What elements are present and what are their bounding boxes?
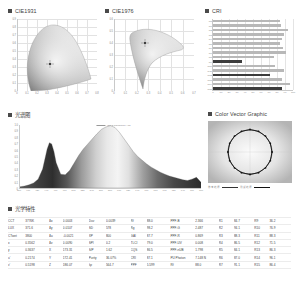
cri-x-tick: 50 xyxy=(252,91,255,94)
spectrum-y-tick: 0.4 xyxy=(14,162,18,165)
legend-ref-label: 参考光源 xyxy=(208,185,220,189)
legend-line-icon xyxy=(96,125,105,126)
cri-bar xyxy=(213,51,286,53)
color-vector-chart xyxy=(208,121,292,183)
cri-bar xyxy=(213,38,282,40)
spectrum-y-tick: 0.8 xyxy=(14,136,18,139)
table-cell-value: 1.798 xyxy=(195,247,219,254)
cri-bar-row: R2 xyxy=(213,29,293,31)
top-charts-row: CIE1931 0.9 0.8 0.7 0.6 0.5 0.4 0.3 0.2 … xyxy=(0,8,299,108)
cri-bar-row: R6 xyxy=(213,47,293,49)
cri-bar xyxy=(213,33,284,35)
table-cell-key: PPF-R xyxy=(170,232,195,239)
bullet-square-icon xyxy=(105,9,109,13)
cri-bar-label: R15 xyxy=(207,87,212,90)
cri-bar xyxy=(213,87,282,89)
cri-x-tick: 30 xyxy=(236,91,239,94)
table-cell-key: PPF-B xyxy=(170,218,195,225)
cri-bar-row: R5 xyxy=(213,42,293,44)
table-cell-key: CTwet xyxy=(8,232,25,239)
table-row: v'0.5198Z186.07λp564.7PPF5.599Rf88.0R791… xyxy=(8,261,291,268)
table-cell-key: PU Photon xyxy=(170,254,195,261)
panel-spectrum: 光谱图 1.00.90.80.70.60.50.40.30.20.10 xyxy=(8,111,203,197)
spectrum-x-tick: 380 xyxy=(17,189,21,192)
table-cell-value: 2.487 xyxy=(195,225,219,232)
spectrum-x-tick: 680 xyxy=(154,189,158,192)
report-page: CIE1931 0.9 0.8 0.7 0.6 0.5 0.4 0.3 0.2 … xyxy=(0,0,299,298)
panel-photometric: 光学特性 CCT3776KΔx0.0003Duv0.0039Rf88.0PPF-… xyxy=(8,205,291,269)
cie1931-y-axis: 0.9 0.8 0.7 0.6 0.5 0.4 0.3 0.2 0.1 0 xyxy=(8,19,17,91)
cri-bar-row: Ra xyxy=(213,20,293,22)
cri-bar xyxy=(213,60,242,62)
table-cell-value: 88.0 xyxy=(195,261,219,268)
cri-bar xyxy=(213,20,280,22)
table-cell-key: XP xyxy=(89,232,106,239)
table-cell-value: 800 xyxy=(106,232,131,239)
cie1976-gamut-shape xyxy=(114,19,194,91)
table-cell-value: 88.0 xyxy=(147,218,171,225)
table-cell-key: Y xyxy=(49,254,63,261)
cri-bar-row: R10 xyxy=(213,65,293,67)
spectrum-x-tick: 780 xyxy=(199,189,203,192)
table-cell-value: 0.3562 xyxy=(25,239,49,246)
table-cell-key: x xyxy=(8,239,25,246)
spectrum-x-tick: 600 xyxy=(117,189,121,192)
table-cell-key: S/P xyxy=(89,247,106,254)
table-cell-key: R12 xyxy=(254,239,269,246)
spectrum-legend: Nm = 0.2841907×12 xyxy=(96,125,131,127)
table-cell-value: 0.0107 xyxy=(63,225,89,232)
table-cell-key: R13 xyxy=(254,247,269,254)
table-cell-value: 86.3 xyxy=(269,247,291,254)
table-row: x0.3562Δv0.0090SPI0.2TLCI79.0PPF-UV0.008… xyxy=(8,239,291,246)
cri-bar xyxy=(213,69,284,71)
spectrum-x-tick: 640 xyxy=(135,189,139,192)
cri-bar-row: R9 xyxy=(213,60,293,62)
table-cell-key: R7 xyxy=(219,261,234,268)
table-cell-value: 3776K xyxy=(25,218,49,225)
table-cell-value: 88.3 xyxy=(269,232,291,239)
table-cell-key: CQS xyxy=(131,247,147,254)
table-cell-value: 94.1 xyxy=(234,225,254,232)
table-cell-value: 84.7 xyxy=(234,218,254,225)
cri-bar-row: R3 xyxy=(213,33,293,35)
cri-x-tick: 70 xyxy=(268,91,271,94)
bullet-square-icon xyxy=(8,113,12,117)
cie1931-title: CIE1931 xyxy=(15,8,37,14)
cri-plot-area: RaR1R2R3R4R5R6R7R8R9R10R11R12R13R14R1501… xyxy=(212,19,293,91)
table-cell-key: Duv xyxy=(89,218,106,225)
table-cell-key: R6 xyxy=(219,254,234,261)
cri-bar-row: R14 xyxy=(213,83,293,85)
spectrum-y-tick: 0.2 xyxy=(14,175,18,178)
photometric-header: 光学特性 xyxy=(8,205,291,213)
spectrum-x-tick: 500 xyxy=(72,189,76,192)
cri-x-tick: 100 xyxy=(291,91,295,94)
cie1976-title: CIE1976 xyxy=(112,8,134,14)
table-cell-key: R1 xyxy=(219,218,234,225)
spectrum-header: 光谱图 xyxy=(8,111,203,119)
table-cell-value: 86.5 xyxy=(234,239,254,246)
table-cell-key: R2 xyxy=(219,225,234,232)
bullet-square-icon xyxy=(205,9,209,13)
cri-bar-row: R12 xyxy=(213,74,293,76)
cri-bar-label: Ra xyxy=(209,20,212,23)
table-cell-key: LUX xyxy=(8,225,25,232)
spectrum-x-tick: 660 xyxy=(144,189,148,192)
table-cell-key: R11 xyxy=(254,232,269,239)
table-cell-key: Δx xyxy=(49,218,63,225)
spectrum-x-tick: 400 xyxy=(26,189,30,192)
table-cell-value: -0.0021 xyxy=(63,232,89,239)
panel-cie1976: CIE1976 0.6 0.5 0.4 0.3 0.2 0.1 0 xyxy=(105,8,193,98)
table-cell-key: CCT xyxy=(8,218,25,225)
table-cell-key: SD xyxy=(89,225,106,232)
table-cell-key: TLCI xyxy=(131,239,147,246)
table-cell-value: 0.3637 xyxy=(25,247,49,254)
cri-x-tick: 0 xyxy=(212,91,213,94)
table-cell-key: CRI xyxy=(131,254,147,261)
cie1976-plot: 0.6 0.5 0.4 0.3 0.2 0.1 0 xyxy=(105,19,194,98)
cri-title: CRI xyxy=(212,8,222,14)
cri-bar-label: R7 xyxy=(209,51,212,54)
cie1976-canvas xyxy=(114,19,194,91)
table-cell-value: 0.0039 xyxy=(106,218,131,225)
spectrum-x-tick: 580 xyxy=(108,189,112,192)
table-cell-value: 1.62 xyxy=(106,247,131,254)
